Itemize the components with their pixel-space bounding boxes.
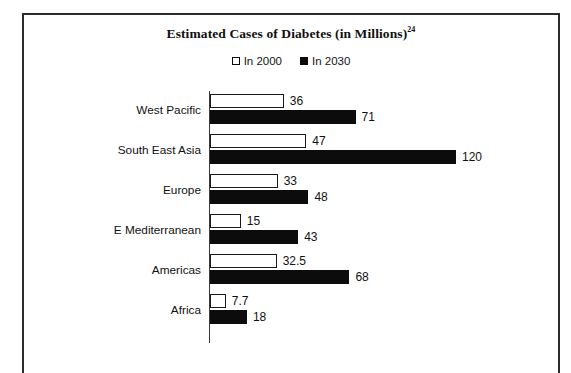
bar-value-label: 32.5 [277,254,306,268]
legend-label-in-2030: In 2030 [312,55,350,67]
bar-value-label: 71 [356,110,375,124]
chart-title: Estimated Cases of Diabetes (in Millions… [22,25,560,42]
chart-title-footnote-ref: 24 [407,25,415,34]
bar-2000[interactable] [210,254,277,268]
bar-value-label: 7.7 [226,294,249,308]
bar-2030[interactable] [210,150,456,164]
bar-value-label: 43 [298,230,317,244]
legend-label-in-2000: In 2000 [244,55,282,67]
bar-group: South East Asia47120 [22,131,560,171]
bar-value-label: 120 [456,150,482,164]
bar-value-label: 36 [284,94,303,108]
plot-area: West Pacific3671South East Asia47120Euro… [22,91,560,357]
bar-2000[interactable] [210,94,284,108]
bar-group: Europe3348 [22,171,560,211]
legend-entry-in-2000: In 2000 [232,55,282,67]
diabetes-bar-chart: Estimated Cases of Diabetes (in Millions… [22,13,560,363]
bar-2000[interactable] [210,214,241,228]
chart-legend: In 2000 In 2030 [22,55,560,67]
bar-value-label: 47 [306,134,325,148]
category-label: E Mediterranean [31,223,201,237]
bar-value-label: 33 [278,174,297,188]
bar-value-label: 48 [308,190,327,204]
bar-2030[interactable] [210,230,298,244]
category-label: West Pacific [31,103,201,117]
legend-entry-in-2030: In 2030 [300,55,350,67]
category-label: Europe [31,183,201,197]
category-label: South East Asia [31,143,201,157]
filled-square-icon [300,57,308,65]
category-label: Americas [31,263,201,277]
bar-group: Americas32.568 [22,251,560,291]
bar-2000[interactable] [210,294,226,308]
bar-2000[interactable] [210,134,306,148]
bar-2030[interactable] [210,190,308,204]
bar-2030[interactable] [210,310,247,324]
bar-2030[interactable] [210,110,356,124]
bar-value-label: 18 [247,310,266,324]
bar-2000[interactable] [210,174,278,188]
bar-2030[interactable] [210,270,349,284]
chart-title-text: Estimated Cases of Diabetes (in Millions… [167,26,408,41]
bar-group: E Mediterranean1543 [22,211,560,251]
category-label: Africa [31,303,201,317]
bar-value-label: 68 [349,270,368,284]
hollow-square-icon [232,57,240,65]
bar-group: West Pacific3671 [22,91,560,131]
bar-group: Africa7.718 [22,291,560,331]
bar-value-label: 15 [241,214,260,228]
